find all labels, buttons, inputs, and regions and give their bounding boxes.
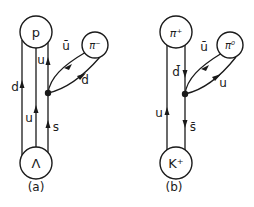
- label-dbar: d̄: [172, 65, 180, 79]
- loop-line-u: [185, 57, 236, 94]
- label-lambda: Λ: [32, 156, 41, 171]
- quark-flow-diagrams: p Λ π⁻ d u u s ū d (a) π⁺ K⁺ π⁰ u d̄ s̄ …: [0, 0, 254, 207]
- label-k-plus: K⁺: [168, 156, 183, 171]
- label-u: u: [155, 106, 163, 120]
- arrow-up-icon: [46, 57, 51, 65]
- label-p: p: [32, 25, 40, 40]
- label-pi-plus: π⁺: [170, 27, 183, 40]
- arrow-up-icon: [165, 107, 170, 115]
- label-pi-zero: π⁰: [225, 40, 235, 51]
- vertex-dot: [45, 90, 51, 96]
- loop-line-ubar: [185, 53, 222, 94]
- arrow-up-icon: [34, 105, 39, 113]
- label-sbar: s̄: [190, 120, 196, 134]
- diagram-a: p Λ π⁻ d u u s ū d (a): [11, 16, 108, 194]
- arrow-icon: [64, 64, 72, 70]
- arrow-down-icon: [183, 70, 188, 78]
- arrow-up-icon: [46, 120, 51, 128]
- label-u: u: [25, 111, 33, 125]
- label-ubar: ū: [200, 40, 208, 54]
- label-ubar: ū: [62, 39, 70, 53]
- arrow-down-icon: [183, 120, 188, 128]
- arrow-up-icon: [20, 80, 25, 88]
- label-u: u: [37, 53, 45, 67]
- label-pi-minus: π⁻: [89, 40, 100, 51]
- label-u: u: [219, 76, 227, 90]
- label-d: d: [11, 80, 19, 94]
- diagram-b: π⁺ K⁺ π⁰ u d̄ s̄ ū u (b): [155, 16, 243, 194]
- caption-b: (b): [166, 180, 183, 194]
- caption-a: (a): [28, 180, 45, 194]
- label-s: s: [53, 120, 59, 134]
- label-d: d: [81, 73, 89, 87]
- arrow-icon: [201, 65, 209, 71]
- vertex-dot: [182, 91, 188, 97]
